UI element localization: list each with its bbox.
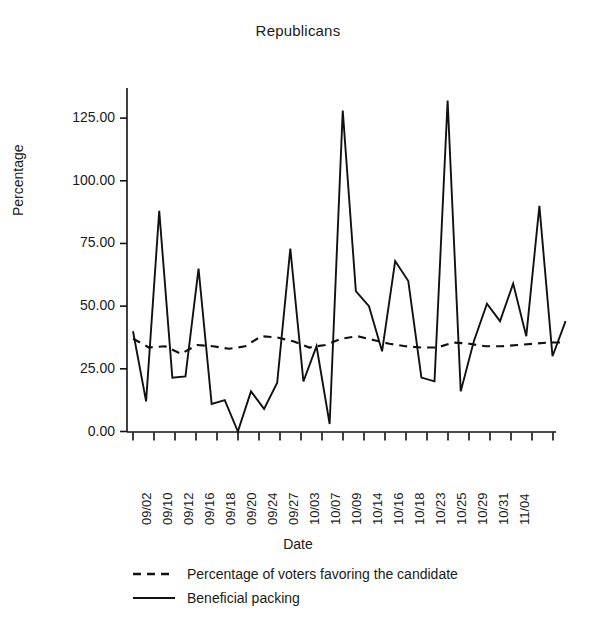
- legend-label-beneficial-packing: Beneficial packing: [187, 590, 300, 606]
- legend-key-dashed-icon: [132, 567, 176, 581]
- legend-label-voters-percentage: Percentage of voters favoring the candid…: [187, 566, 458, 582]
- legend-item-voters-percentage: Percentage of voters favoring the candid…: [132, 562, 458, 586]
- x-axis-label: Date: [0, 536, 596, 552]
- legend-key-solid-icon: [132, 591, 176, 605]
- plot-area: [0, 0, 596, 627]
- x-axis-ticks: [133, 433, 553, 441]
- series-line-voters-percentage: [133, 336, 566, 354]
- legend-item-beneficial-packing: Beneficial packing: [132, 586, 458, 610]
- chart-legend: Percentage of voters favoring the candid…: [132, 562, 458, 610]
- series-line-beneficial-packing: [133, 101, 566, 432]
- y-axis-ticks: [120, 118, 127, 431]
- chart-figure: Republicans Percentage 0.0025.0050.0075.…: [0, 0, 596, 627]
